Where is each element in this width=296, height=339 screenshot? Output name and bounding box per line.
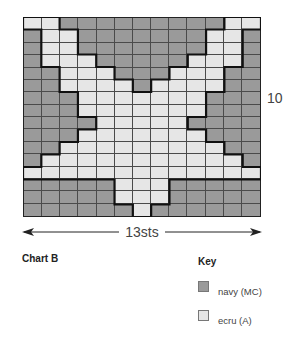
chart-cell bbox=[169, 55, 187, 67]
chart-cell bbox=[224, 92, 242, 104]
chart-cell bbox=[169, 204, 187, 216]
chart-cell bbox=[187, 92, 205, 104]
chart-cell bbox=[187, 204, 205, 216]
chart-cell bbox=[42, 142, 60, 154]
chart-cell bbox=[78, 30, 96, 42]
chart-cell bbox=[42, 80, 60, 92]
chart-cell bbox=[97, 30, 115, 42]
chart-cell bbox=[224, 129, 242, 141]
chart-cell bbox=[169, 105, 187, 117]
chart-cell bbox=[24, 167, 42, 179]
chart-cell bbox=[115, 129, 133, 141]
chart-cell bbox=[60, 30, 78, 42]
chart-cell bbox=[24, 92, 42, 104]
chart-cell bbox=[169, 68, 187, 80]
chart-cell bbox=[97, 129, 115, 141]
chart-cell bbox=[24, 204, 42, 216]
chart-cell bbox=[133, 18, 151, 30]
chart-cell bbox=[78, 80, 96, 92]
chart-cell bbox=[151, 55, 169, 67]
chart-cell bbox=[42, 167, 60, 179]
chart-cell bbox=[169, 191, 187, 203]
chart-cell bbox=[169, 179, 187, 191]
chart-cell bbox=[151, 142, 169, 154]
chart-cell bbox=[169, 92, 187, 104]
chart-cell bbox=[206, 179, 224, 191]
chart-cell bbox=[42, 117, 60, 129]
chart-cell bbox=[78, 18, 96, 30]
chart-cell bbox=[97, 92, 115, 104]
chart-cell bbox=[169, 129, 187, 141]
chart-cell bbox=[78, 55, 96, 67]
chart-cell bbox=[24, 80, 42, 92]
chart-cell bbox=[97, 179, 115, 191]
chart-cell bbox=[206, 55, 224, 67]
chart-cell bbox=[97, 55, 115, 67]
chart-cell bbox=[115, 117, 133, 129]
chart-cell bbox=[224, 18, 242, 30]
chart-cell bbox=[42, 55, 60, 67]
chart-cell bbox=[187, 105, 205, 117]
chart-cell bbox=[133, 105, 151, 117]
chart-cell bbox=[187, 129, 205, 141]
chart-cell bbox=[151, 68, 169, 80]
chart-cell bbox=[224, 117, 242, 129]
chart-cell bbox=[206, 129, 224, 141]
chart-cell bbox=[206, 204, 224, 216]
chart-cell bbox=[60, 55, 78, 67]
chart-cell bbox=[151, 154, 169, 166]
chart-cell bbox=[151, 204, 169, 216]
key-title: Key bbox=[198, 256, 216, 267]
chart-cell bbox=[115, 204, 133, 216]
chart-cell bbox=[206, 142, 224, 154]
chart-cell bbox=[206, 18, 224, 30]
chart-cell bbox=[187, 154, 205, 166]
chart-cell bbox=[224, 68, 242, 80]
chart-cell bbox=[24, 18, 42, 30]
chart-cell bbox=[78, 105, 96, 117]
chart-cell bbox=[169, 43, 187, 55]
chart-cell bbox=[42, 191, 60, 203]
chart-cell bbox=[115, 191, 133, 203]
stitch-width-indicator: 13sts bbox=[22, 224, 262, 240]
chart-cell bbox=[187, 117, 205, 129]
chart-cell bbox=[24, 68, 42, 80]
chart-cell bbox=[60, 191, 78, 203]
chart-cell bbox=[151, 129, 169, 141]
chart-cell bbox=[224, 179, 242, 191]
chart-cell bbox=[151, 30, 169, 42]
chart-cell bbox=[97, 68, 115, 80]
chart-cell bbox=[206, 105, 224, 117]
key-label-navy: navy (MC) bbox=[218, 286, 262, 297]
chart-cell bbox=[42, 92, 60, 104]
chart-cell bbox=[115, 154, 133, 166]
chart-cell bbox=[115, 43, 133, 55]
chart-cell bbox=[206, 30, 224, 42]
chart-cell bbox=[60, 179, 78, 191]
chart-cell bbox=[242, 142, 260, 154]
chart-cell bbox=[242, 179, 260, 191]
chart-cell bbox=[24, 43, 42, 55]
chart-cell bbox=[60, 92, 78, 104]
chart-cell bbox=[151, 117, 169, 129]
chart-cell bbox=[97, 167, 115, 179]
chart-cell bbox=[60, 117, 78, 129]
chart-cell bbox=[242, 191, 260, 203]
chart-cell bbox=[60, 105, 78, 117]
chart-cell bbox=[24, 191, 42, 203]
chart-cell bbox=[187, 30, 205, 42]
chart-cell bbox=[115, 142, 133, 154]
chart-cell bbox=[115, 55, 133, 67]
chart-cell bbox=[187, 55, 205, 67]
chart-cell bbox=[133, 129, 151, 141]
chart-cell bbox=[24, 142, 42, 154]
chart-cell bbox=[42, 18, 60, 30]
chart-cell bbox=[187, 43, 205, 55]
chart-cell bbox=[151, 43, 169, 55]
chart-cell bbox=[224, 204, 242, 216]
chart-cell bbox=[133, 55, 151, 67]
chart-cell bbox=[187, 179, 205, 191]
chart-cell bbox=[206, 68, 224, 80]
chart-cell bbox=[187, 167, 205, 179]
chart-cell bbox=[242, 68, 260, 80]
